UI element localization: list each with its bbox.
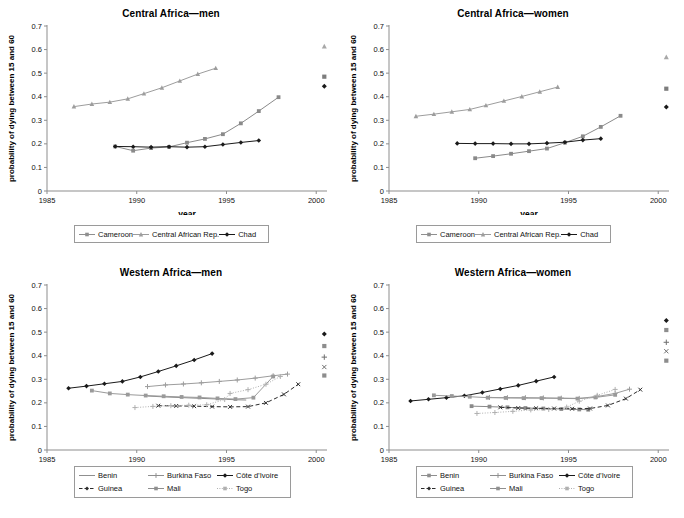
svg-text:1995: 1995 bbox=[560, 196, 577, 205]
svg-text:0: 0 bbox=[380, 446, 384, 455]
legend-label: Togo bbox=[236, 484, 252, 493]
legend-item[interactable]: Central African Rep. bbox=[475, 230, 561, 239]
plot-area: 00.10.20.30.40.50.60.71985199019952000ye… bbox=[0, 259, 342, 474]
legend-item[interactable]: Guinea bbox=[79, 484, 148, 493]
svg-text:0.1: 0.1 bbox=[374, 163, 384, 172]
svg-text:0.5: 0.5 bbox=[32, 328, 42, 337]
svg-text:1985: 1985 bbox=[39, 196, 56, 205]
svg-text:probability of dying between 1: probability of dying between 15 and 60 bbox=[7, 34, 16, 182]
legend-key-square-icon bbox=[421, 471, 437, 480]
svg-text:0.6: 0.6 bbox=[374, 304, 384, 313]
legend-key-square-icon bbox=[490, 484, 506, 493]
svg-text:1990: 1990 bbox=[128, 455, 145, 464]
svg-text:0.6: 0.6 bbox=[32, 304, 42, 313]
svg-text:1985: 1985 bbox=[381, 455, 398, 464]
legend-grid: Cameroon Central African Rep. Chad bbox=[75, 226, 268, 242]
svg-text:1990: 1990 bbox=[470, 455, 487, 464]
legend-item[interactable]: Togo bbox=[559, 484, 628, 493]
svg-text:0: 0 bbox=[38, 187, 42, 196]
svg-text:probability of dying between 1: probability of dying between 15 and 60 bbox=[349, 293, 358, 441]
svg-text:0: 0 bbox=[38, 446, 42, 455]
svg-text:1995: 1995 bbox=[560, 455, 577, 464]
svg-text:0.4: 0.4 bbox=[32, 92, 42, 101]
legend-key-diamond-icon bbox=[561, 230, 577, 239]
legend-label: Burkina Faso bbox=[509, 471, 553, 480]
svg-text:0.4: 0.4 bbox=[32, 351, 42, 360]
legend-item[interactable]: Mali bbox=[148, 484, 217, 493]
legend-item[interactable]: Cameroon bbox=[421, 230, 475, 239]
svg-text:0.2: 0.2 bbox=[374, 398, 384, 407]
svg-text:0: 0 bbox=[380, 187, 384, 196]
svg-text:0.6: 0.6 bbox=[32, 45, 42, 54]
legend-label: Benin bbox=[440, 471, 459, 480]
svg-text:1985: 1985 bbox=[381, 196, 398, 205]
svg-text:0.3: 0.3 bbox=[32, 375, 42, 384]
svg-text:2000: 2000 bbox=[308, 455, 325, 464]
legend-key-square-icon bbox=[148, 484, 164, 493]
chart-legend: Cameroon Central African Rep. Chad bbox=[416, 225, 611, 243]
svg-text:0.1: 0.1 bbox=[374, 422, 384, 431]
svg-text:0.5: 0.5 bbox=[32, 69, 42, 78]
legend-item[interactable]: Chad bbox=[561, 230, 606, 239]
legend-item[interactable]: Central African Rep. bbox=[133, 230, 219, 239]
legend-key-diamond-icon bbox=[219, 230, 235, 239]
legend-label: Cameroon bbox=[98, 230, 133, 239]
chart-legend: Cameroon Central African Rep. Chad bbox=[74, 225, 269, 243]
svg-text:1985: 1985 bbox=[39, 455, 56, 464]
legend-item[interactable]: Cameroon bbox=[79, 230, 133, 239]
panel-western-africa-women: Western Africa—women 00.10.20.30.40.50.6… bbox=[342, 259, 684, 518]
svg-text:1995: 1995 bbox=[218, 196, 235, 205]
chart-legend: Benin Burkina Faso Côte d’Ivoire Guinea … bbox=[416, 466, 633, 498]
chart-legend: Benin Burkina Faso Côte d’Ivoire Guinea … bbox=[74, 466, 291, 498]
legend-label: Central African Rep. bbox=[152, 230, 219, 239]
svg-text:1995: 1995 bbox=[218, 455, 235, 464]
legend-grid: Benin Burkina Faso Côte d’Ivoire Guinea … bbox=[417, 467, 632, 497]
legend-key-diamond-icon bbox=[559, 471, 575, 480]
legend-key-diamond-icon bbox=[217, 471, 233, 480]
svg-text:probability of dying between 1: probability of dying between 15 and 60 bbox=[7, 293, 16, 441]
panel-central-africa-men: Central Africa—men 00.10.20.30.40.50.60.… bbox=[0, 0, 342, 259]
svg-text:0.7: 0.7 bbox=[32, 281, 42, 290]
legend-grid: Benin Burkina Faso Côte d’Ivoire Guinea … bbox=[75, 467, 290, 497]
legend-item[interactable]: Mali bbox=[490, 484, 559, 493]
legend-item[interactable]: Togo bbox=[217, 484, 286, 493]
svg-text:0.2: 0.2 bbox=[32, 139, 42, 148]
svg-text:0.6: 0.6 bbox=[374, 45, 384, 54]
plot-area: 00.10.20.30.40.50.60.71985199019952000ye… bbox=[342, 0, 684, 215]
legend-label: Guinea bbox=[440, 484, 464, 493]
svg-text:2000: 2000 bbox=[308, 196, 325, 205]
legend-label: Central African Rep. bbox=[494, 230, 561, 239]
legend-key-square-icon bbox=[79, 230, 95, 239]
panel-western-africa-men: Western Africa—men 00.10.20.30.40.50.60.… bbox=[0, 259, 342, 518]
legend-key-dotted-icon bbox=[217, 484, 233, 493]
legend-item[interactable]: Côte d’Ivoire bbox=[559, 471, 628, 480]
legend-label: Côte d’Ivoire bbox=[578, 471, 620, 480]
svg-text:0.2: 0.2 bbox=[374, 139, 384, 148]
legend-item[interactable]: Burkina Faso bbox=[490, 471, 559, 480]
legend-key-line-icon bbox=[79, 471, 95, 480]
svg-text:0.5: 0.5 bbox=[374, 328, 384, 337]
legend-key-plus-icon bbox=[490, 471, 506, 480]
legend-label: Guinea bbox=[98, 484, 122, 493]
legend-key-dotted-icon bbox=[559, 484, 575, 493]
plot-area: 00.10.20.30.40.50.60.71985199019952000ye… bbox=[342, 259, 684, 474]
legend-item[interactable]: Benin bbox=[421, 471, 490, 480]
svg-text:0.4: 0.4 bbox=[374, 351, 384, 360]
legend-item[interactable]: Guinea bbox=[421, 484, 490, 493]
legend-item[interactable]: Côte d’Ivoire bbox=[217, 471, 286, 480]
legend-item[interactable]: Chad bbox=[219, 230, 264, 239]
svg-text:0.3: 0.3 bbox=[374, 116, 384, 125]
svg-text:0.7: 0.7 bbox=[32, 22, 42, 31]
svg-text:2000: 2000 bbox=[650, 455, 667, 464]
svg-text:0.4: 0.4 bbox=[374, 92, 384, 101]
svg-text:0.2: 0.2 bbox=[32, 398, 42, 407]
legend-item[interactable]: Burkina Faso bbox=[148, 471, 217, 480]
legend-label: Cameroon bbox=[440, 230, 475, 239]
legend-grid: Cameroon Central African Rep. Chad bbox=[417, 226, 610, 242]
svg-text:0.3: 0.3 bbox=[32, 116, 42, 125]
svg-text:0.3: 0.3 bbox=[374, 375, 384, 384]
legend-item[interactable]: Benin bbox=[79, 471, 148, 480]
legend-label: Mali bbox=[509, 484, 523, 493]
figure-canvas: Central Africa—men 00.10.20.30.40.50.60.… bbox=[0, 0, 684, 518]
legend-label: Chad bbox=[580, 230, 598, 239]
